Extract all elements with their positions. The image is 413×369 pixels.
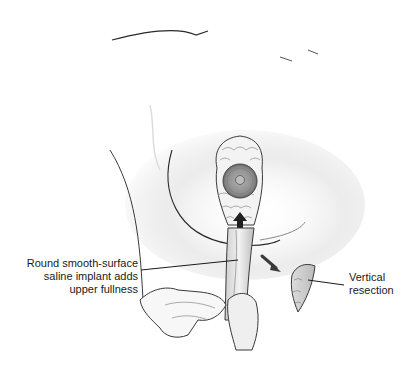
clavicle-line [112, 31, 208, 40]
hand-left [140, 288, 226, 337]
shoulder-tick-2 [308, 50, 318, 54]
resected-tissue [291, 264, 315, 312]
resection-leader [308, 280, 344, 285]
illustration [0, 0, 413, 369]
resection-label: Vertical resection [349, 271, 411, 297]
implant-label-line-3: upper fullness [12, 283, 138, 296]
implant-label-line-1: Round smooth-surface [12, 257, 138, 270]
shoulder-tick-1 [280, 57, 292, 61]
resection-label-line-2: resection [349, 284, 411, 297]
nipple [236, 176, 245, 185]
hand-right [228, 293, 258, 350]
resection-label-line-1: Vertical [349, 271, 411, 284]
implant-label: Round smooth-surface saline implant adds… [12, 257, 138, 296]
implant-label-line-2: saline implant adds [12, 270, 138, 283]
